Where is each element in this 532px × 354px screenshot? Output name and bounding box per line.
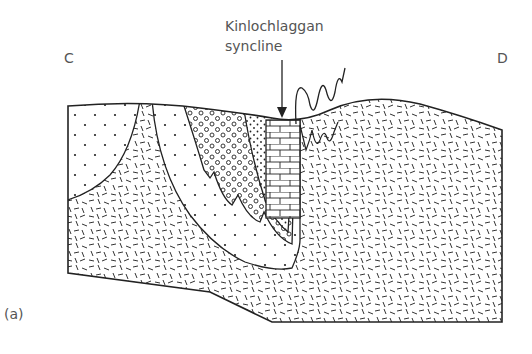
label-d: D [497,50,508,66]
syncline-label-line2: syncline [225,38,282,54]
limestone-unit [266,120,300,218]
arrow-head [277,107,287,118]
geological-cross-section: C D Kinlochlaggan syncline (a) [0,0,532,354]
label-c: C [64,50,74,66]
panel-label: (a) [4,306,24,322]
syncline-label-line1: Kinlochlaggan [225,18,324,34]
